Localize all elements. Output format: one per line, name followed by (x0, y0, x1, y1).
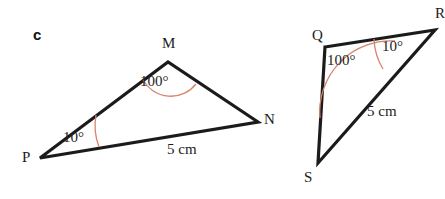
vertex-label-s: S (304, 170, 312, 185)
vertex-label-r: R (435, 6, 445, 21)
angle-arc-P-10 (95, 115, 99, 147)
vertex-label-n: N (264, 112, 275, 127)
vertex-label-p: P (22, 150, 30, 165)
side-label-rs-length: 5 cm (367, 104, 397, 119)
side-label-pn-length: 5 cm (167, 142, 197, 157)
angle-label-p-10: 10° (63, 130, 84, 145)
part-label-c: c (33, 27, 41, 42)
angle-label-m-100: 100° (140, 74, 169, 89)
angle-label-r-10: 10° (382, 39, 403, 54)
vertex-label-q: Q (312, 28, 323, 43)
geometry-figure: c M N P 100° 10° 5 cm Q R S 100° 10° 5 c… (0, 0, 445, 199)
triangle-QRS-shape (318, 30, 435, 163)
triangle-QRS-outline (318, 30, 435, 163)
vertex-label-m: M (162, 36, 175, 51)
angle-label-q-100: 100° (327, 53, 356, 68)
figure-canvas (0, 0, 445, 199)
